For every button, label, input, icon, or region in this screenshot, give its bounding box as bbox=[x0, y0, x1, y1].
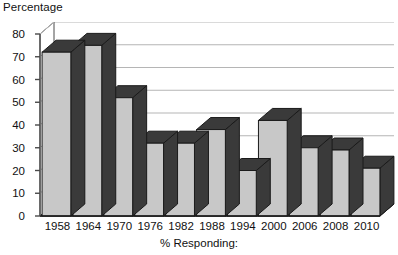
y-tick-label: 50 bbox=[3, 96, 25, 108]
bar-1958 bbox=[42, 40, 85, 216]
x-axis-tick-labels: 1958196419701976198219881994200020062008… bbox=[0, 219, 398, 237]
x-tick-label: 1994 bbox=[226, 219, 260, 233]
bar-front-face bbox=[42, 52, 71, 216]
y-tick-label: 70 bbox=[3, 51, 25, 63]
x-tick-label: 1958 bbox=[40, 219, 74, 233]
x-tick-label: 1988 bbox=[195, 219, 229, 233]
bar-side-face bbox=[71, 40, 85, 216]
bar-side-face bbox=[225, 118, 239, 216]
y-tick-label: 40 bbox=[3, 119, 25, 131]
x-tick-label: 2000 bbox=[257, 219, 291, 233]
bar-side-face bbox=[164, 131, 178, 216]
bar-side-face bbox=[318, 136, 332, 216]
bar-chart: Percentage 80706050403020100 19581964197… bbox=[0, 0, 398, 255]
bar-side-face bbox=[349, 138, 363, 216]
bar-side-face bbox=[194, 131, 208, 216]
bar-side-face bbox=[133, 86, 147, 216]
plot-area bbox=[31, 22, 398, 218]
bar-side-face bbox=[102, 33, 116, 216]
y-axis-tick-labels: 80706050403020100 bbox=[0, 0, 25, 255]
y-tick-label: 80 bbox=[3, 28, 25, 40]
x-tick-label: 1976 bbox=[133, 219, 167, 233]
x-tick-label: 2006 bbox=[288, 219, 322, 233]
bar-side-face bbox=[287, 108, 301, 216]
y-tick-label: 30 bbox=[3, 142, 25, 154]
x-tick-label: 2008 bbox=[319, 219, 353, 233]
x-tick-label: 2010 bbox=[350, 219, 384, 233]
y-tick-label: 60 bbox=[3, 74, 25, 86]
x-tick-label: 1970 bbox=[102, 219, 136, 233]
y-tick-label: 10 bbox=[3, 187, 25, 199]
y-tick-label: 20 bbox=[3, 165, 25, 177]
x-tick-label: 1982 bbox=[164, 219, 198, 233]
plot-svg bbox=[31, 22, 398, 218]
x-axis-title: % Responding: bbox=[0, 236, 398, 250]
x-tick-label: 1964 bbox=[71, 219, 105, 233]
